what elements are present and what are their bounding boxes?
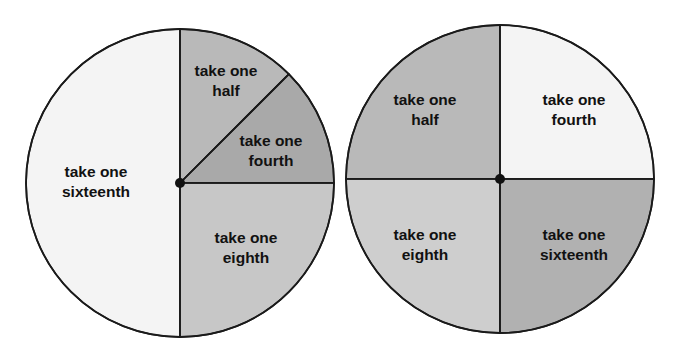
- left-circle: take onesixteenthtake onehalftake onefou…: [26, 29, 334, 337]
- center-dot: [175, 178, 185, 188]
- center-dot: [495, 174, 505, 184]
- pie-diagrams-svg: take onesixteenthtake onehalftake onefou…: [0, 0, 680, 362]
- right-circle: take onehalftake onefourthtake oneeighth…: [346, 25, 654, 333]
- figure-root: take onesixteenthtake onehalftake onefou…: [0, 0, 680, 362]
